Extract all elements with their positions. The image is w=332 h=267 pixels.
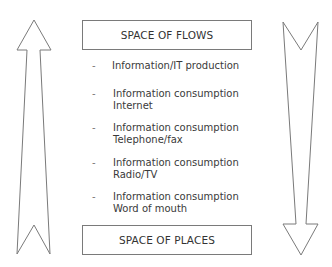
bullet-dash: - <box>92 191 102 203</box>
item-line2: Internet <box>113 100 153 112</box>
space-of-flows-label: SPACE OF FLOWS <box>121 29 214 41</box>
bullet-dash: - <box>92 157 102 169</box>
bullet-dash: - <box>92 122 102 134</box>
item-line1: Information consumption <box>113 157 239 169</box>
bullet-dash: - <box>92 88 102 100</box>
item-line1: Information/IT production <box>112 60 239 72</box>
item-line1: Information consumption <box>113 122 239 134</box>
space-of-places-label: SPACE OF PLACES <box>119 234 215 246</box>
up-arrow-icon <box>17 20 51 254</box>
space-of-places-box: SPACE OF PLACES <box>82 225 252 255</box>
space-of-flows-box: SPACE OF FLOWS <box>82 20 252 50</box>
item-line2: Radio/TV <box>113 169 157 181</box>
bullet-dash: - <box>92 60 102 72</box>
item-line2: Telephone/fax <box>113 134 183 146</box>
item-line1: Information consumption <box>113 88 239 100</box>
down-arrow-icon <box>283 22 318 255</box>
item-line2: Word of mouth <box>113 203 187 215</box>
item-line1: Information consumption <box>113 191 239 203</box>
